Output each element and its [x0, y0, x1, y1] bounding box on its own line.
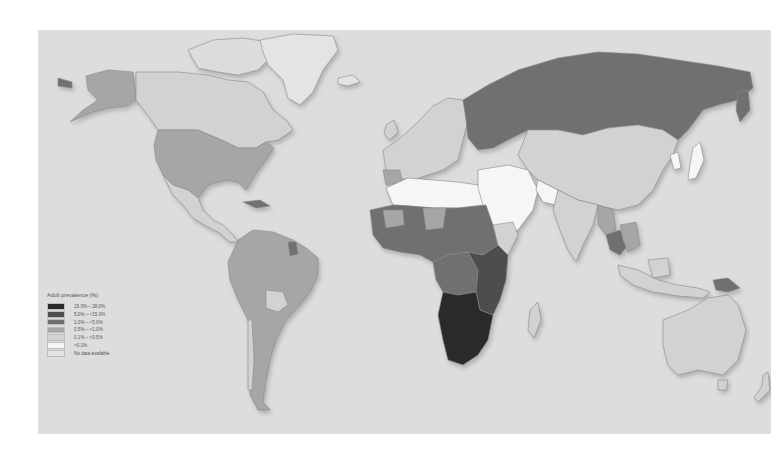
legend-item: <0.1%: [47, 342, 110, 349]
region-uk: [384, 120, 398, 140]
world-map: [38, 30, 771, 434]
region-myanmar: [598, 205, 616, 235]
legend-item: No data available: [47, 350, 110, 357]
legend-swatch: [47, 311, 65, 318]
legend-item: 0.5% – <1.0%: [47, 326, 110, 333]
region-sahel: [383, 210, 404, 228]
legend-item: 5.0% – <15.0%: [47, 311, 110, 318]
region-north-africa: [386, 178, 488, 208]
region-greenland: [260, 34, 338, 105]
region-papua-new-guinea: [713, 278, 740, 292]
legend-title: Adult prevalence (%): [47, 292, 110, 298]
legend: Adult prevalence (%) 15.0% – 28.0% 5.0% …: [47, 292, 110, 358]
region-canadian-arctic: [188, 38, 273, 75]
legend-swatch: [47, 319, 65, 326]
legend-label: 5.0% – <15.0%: [74, 312, 105, 317]
legend-label: 0.1% – <0.5%: [74, 335, 103, 340]
region-japan: [688, 142, 704, 180]
legend-item: 0.1% – <0.5%: [47, 334, 110, 341]
region-tasmania: [718, 380, 728, 390]
region-europe: [383, 98, 468, 180]
legend-label: No data available: [74, 351, 110, 356]
region-australia: [663, 295, 746, 375]
region-chad-niger: [423, 208, 446, 230]
legend-swatch: [47, 334, 65, 341]
region-south-america: [228, 230, 318, 410]
legend-label: <0.1%: [74, 343, 87, 348]
region-borneo: [648, 258, 670, 278]
legend-item: 15.0% – 28.0%: [47, 303, 110, 310]
region-kamchatka: [736, 90, 750, 122]
legend-label: 1.0% – <5.0%: [74, 320, 103, 325]
world-map-svg: [38, 30, 771, 434]
legend-swatch: [47, 350, 65, 357]
legend-label: 15.0% – 28.0%: [74, 304, 105, 309]
region-alaska: [70, 70, 136, 122]
legend-label: 0.5% – <1.0%: [74, 327, 103, 332]
region-madagascar: [528, 302, 541, 338]
region-guyana: [288, 242, 298, 256]
region-caribbean: [243, 200, 270, 208]
legend-swatch: [47, 342, 65, 349]
legend-swatch: [47, 303, 65, 310]
region-iceland: [338, 75, 360, 86]
region-korea: [670, 152, 681, 170]
region-far-east-tip: [58, 78, 72, 88]
legend-swatch: [47, 327, 65, 334]
region-new-zealand: [754, 372, 770, 402]
legend-item: 1.0% – <5.0%: [47, 319, 110, 326]
